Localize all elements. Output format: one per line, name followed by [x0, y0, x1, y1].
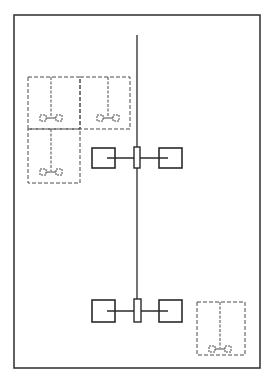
unit-bottom-right — [197, 302, 245, 355]
center-connector — [134, 299, 141, 322]
dashed-enclosure — [28, 77, 80, 129]
right-pad-icon — [113, 115, 119, 121]
center-connector — [134, 147, 140, 168]
upper-assembly — [92, 147, 182, 168]
dashed-enclosure — [28, 129, 80, 183]
right-pad-icon — [56, 169, 62, 175]
left-pad-icon — [97, 115, 103, 121]
schematic-diagram — [0, 0, 270, 377]
left-pad-icon — [209, 346, 215, 352]
left-pad-icon — [40, 115, 46, 121]
right-pad-icon — [56, 115, 62, 121]
unit-top-right — [80, 77, 130, 129]
lower-assembly — [92, 299, 182, 322]
unit-top-left — [28, 77, 80, 129]
dashed-enclosure — [197, 302, 245, 355]
dashed-enclosure — [80, 77, 130, 129]
unit-bottom-left — [28, 129, 80, 183]
right-pad-icon — [225, 346, 231, 352]
left-pad-icon — [40, 169, 46, 175]
